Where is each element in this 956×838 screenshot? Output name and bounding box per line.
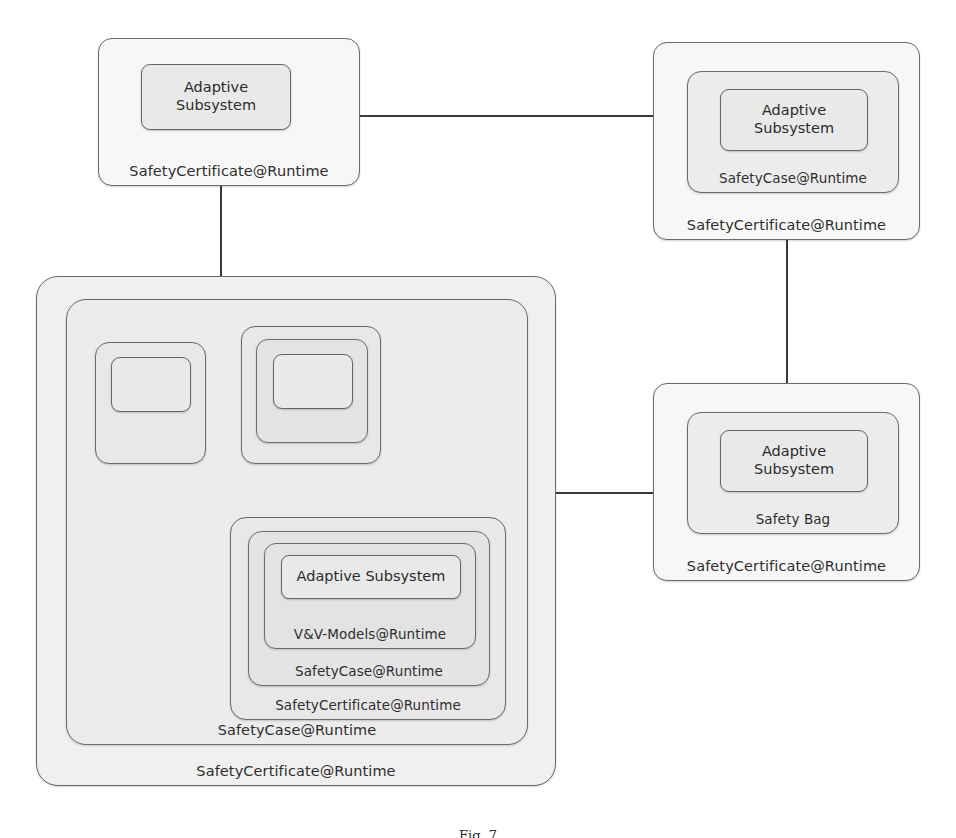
adaptive-label-line2: Subsystem xyxy=(176,97,256,113)
edge-topleft-to-composite xyxy=(220,183,222,281)
node-composite-safetycase[interactable]: Adaptive Subsystem V&V-Models@Runtime Sa… xyxy=(66,299,528,745)
adaptive-label-inline: Adaptive Subsystem xyxy=(297,568,446,586)
label-top-right-safetycase: SafetyCase@Runtime xyxy=(688,170,898,186)
node-child-a[interactable] xyxy=(95,342,206,464)
adaptive-label-line1: Adaptive xyxy=(762,102,826,118)
node-safety-bag-certificate[interactable]: Adaptive Subsystem Safety Bag SafetyCert… xyxy=(653,383,920,581)
edge-composite-to-safetybag xyxy=(556,492,656,494)
label-child-c-vvmodels: V&V-Models@Runtime xyxy=(265,626,475,642)
leaf-adaptive-subsystem-top-right[interactable]: Adaptive Subsystem xyxy=(720,89,868,151)
node-child-c-safetycase[interactable]: Adaptive Subsystem V&V-Models@Runtime Sa… xyxy=(248,531,490,686)
label-child-c-certificate: SafetyCertificate@Runtime xyxy=(231,697,505,713)
label-top-right-certificate: SafetyCertificate@Runtime xyxy=(654,217,919,233)
adaptive-label-line1: Adaptive xyxy=(184,79,248,95)
adaptive-label-line1: Adaptive xyxy=(762,443,826,459)
leaf-child-b-inner[interactable] xyxy=(273,354,353,409)
node-top-right-safetycase[interactable]: Adaptive Subsystem SafetyCase@Runtime xyxy=(687,71,899,193)
leaf-adaptive-subsystem-child-c[interactable]: Adaptive Subsystem xyxy=(281,555,461,599)
label-top-left-certificate: SafetyCertificate@Runtime xyxy=(99,163,359,179)
leaf-adaptive-subsystem-top-left[interactable]: Adaptive Subsystem xyxy=(141,64,291,130)
adaptive-label-line2: Subsystem xyxy=(754,120,834,136)
edge-topright-to-safetybag xyxy=(786,240,788,383)
label-safety-bag: Safety Bag xyxy=(688,511,898,527)
node-top-left-certificate[interactable]: Adaptive Subsystem SafetyCertificate@Run… xyxy=(98,38,360,186)
node-child-c-vvmodels[interactable]: Adaptive Subsystem V&V-Models@Runtime xyxy=(264,543,476,649)
edge-topleft-to-topright xyxy=(360,115,655,117)
label-composite-safetycase: SafetyCase@Runtime xyxy=(67,722,527,738)
node-child-c-certificate[interactable]: Adaptive Subsystem V&V-Models@Runtime Sa… xyxy=(230,517,506,720)
node-composite-certificate[interactable]: Adaptive Subsystem V&V-Models@Runtime Sa… xyxy=(36,276,556,786)
label-child-c-safetycase: SafetyCase@Runtime xyxy=(249,663,489,679)
leaf-adaptive-subsystem-safety-bag[interactable]: Adaptive Subsystem xyxy=(720,430,868,492)
label-safety-bag-certificate: SafetyCertificate@Runtime xyxy=(654,558,919,574)
diagram-canvas: Adaptive Subsystem SafetyCertificate@Run… xyxy=(0,0,956,838)
leaf-child-a-inner[interactable] xyxy=(111,357,191,412)
adaptive-label-line2: Subsystem xyxy=(754,461,834,477)
node-child-b-middle[interactable] xyxy=(256,339,368,443)
node-top-right-certificate[interactable]: Adaptive Subsystem SafetyCase@Runtime Sa… xyxy=(653,42,920,240)
label-composite-certificate: SafetyCertificate@Runtime xyxy=(37,763,555,779)
node-child-b[interactable] xyxy=(241,326,381,464)
figure-caption: Fig. 7 xyxy=(0,828,956,838)
node-safety-bag[interactable]: Adaptive Subsystem Safety Bag xyxy=(687,412,899,534)
